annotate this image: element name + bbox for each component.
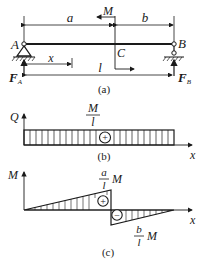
svg-text:l: l (102, 179, 105, 191)
label-point-c: C (117, 46, 126, 60)
label-point-b: B (178, 36, 186, 51)
caption-a: (a) (98, 83, 111, 96)
positive-peak-label: a l M (99, 166, 123, 191)
label-l: l (98, 60, 102, 75)
label-x: x (47, 51, 54, 65)
negative-peak-label: b l M (134, 223, 158, 248)
label-force-a: FA (8, 70, 23, 86)
caption-b: (b) (98, 150, 111, 163)
axis-label-q: Q (10, 110, 19, 124)
plus-sign: + (102, 132, 108, 143)
caption-c: (c) (102, 246, 115, 259)
label-moment: M (102, 4, 114, 18)
label-b: b (142, 10, 149, 25)
beam-diagram: a b M A B C (0, 0, 207, 261)
label-force-b: FB (177, 70, 192, 86)
axis-label-x-c: x (189, 213, 196, 227)
shear-value-denominator: l (91, 115, 95, 129)
label-a: a (67, 10, 74, 25)
svg-text:b: b (136, 223, 142, 235)
minus-sign: − (114, 210, 120, 221)
axis-label-m: M (7, 168, 19, 182)
svg-text:l: l (137, 236, 140, 248)
shear-value-numerator: M (87, 101, 99, 115)
label-point-a: A (10, 37, 19, 52)
figure-c-moment-diagram: M x + − a l M (7, 166, 196, 259)
svg-text:M: M (111, 172, 123, 186)
negative-hatching (126, 210, 168, 221)
plus-sign-c: + (100, 196, 106, 207)
figure-a-beam: a b M A B C (8, 4, 192, 96)
figure-b-shear-diagram: Q x + M l (b) (10, 101, 196, 163)
axis-label-x-b: x (189, 148, 196, 162)
svg-text:M: M (146, 229, 158, 243)
svg-text:a: a (101, 166, 107, 178)
